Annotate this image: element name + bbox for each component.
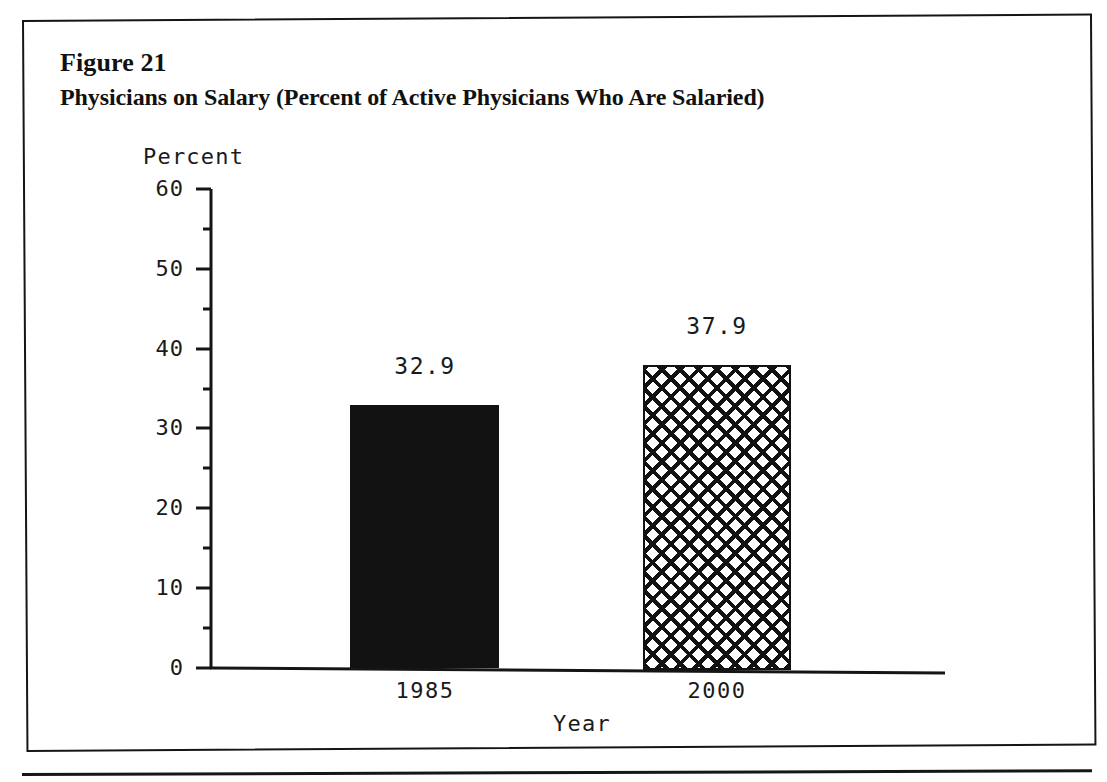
x-axis-title: Year: [517, 711, 647, 736]
bar-value-label-2000: 37.9: [617, 313, 817, 339]
bar-chart: Percent 60 50 40 30 20 10 0 32.9 37.9 19…: [0, 0, 1107, 782]
y-tick-label: 20: [124, 495, 184, 520]
bar-1985[interactable]: [350, 405, 499, 668]
y-axis-major-ticks: [196, 189, 211, 668]
x-tick-label-1985: 1985: [325, 678, 525, 703]
y-axis-tick-labels: 60 50 40 30 20 10 0: [124, 0, 184, 782]
bar-2000[interactable]: [643, 365, 791, 670]
y-tick-label: 0: [124, 655, 184, 680]
y-tick-label: 10: [124, 575, 184, 600]
y-tick-label: 30: [124, 415, 184, 440]
x-tick-label-2000: 2000: [617, 678, 817, 703]
x-axis-line: [210, 668, 945, 673]
y-tick-label: 60: [124, 176, 184, 201]
y-tick-label: 40: [124, 336, 184, 361]
y-tick-label: 50: [124, 256, 184, 281]
bar-value-label-1985: 32.9: [325, 353, 525, 379]
